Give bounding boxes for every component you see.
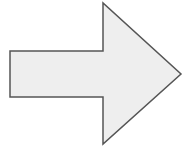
arrow-diagram [0, 0, 193, 149]
canvas [0, 0, 193, 149]
right-arrow-icon [10, 3, 181, 144]
